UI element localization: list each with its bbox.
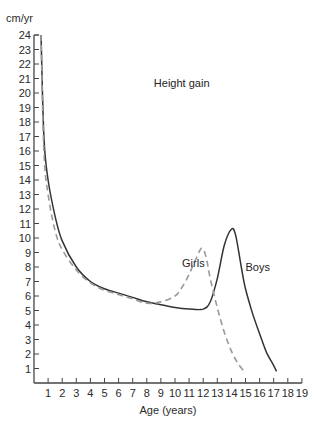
y-tick-label: 3 <box>25 334 31 346</box>
x-tick-label: 11 <box>183 387 194 399</box>
annotation-girls: Girls <box>182 257 205 269</box>
x-tick-label: 9 <box>158 387 164 399</box>
y-tick-label: 22 <box>19 58 31 70</box>
y-tick-label: 8 <box>25 261 31 273</box>
y-tick-label: 19 <box>19 102 31 114</box>
x-tick-label: 8 <box>144 387 150 399</box>
x-tick-label: 12 <box>197 387 209 399</box>
y-tick-label: 12 <box>19 203 31 215</box>
x-tick-label: 10 <box>169 387 181 399</box>
y-tick-label: 10 <box>19 232 31 244</box>
y-tick-label: 21 <box>19 73 31 85</box>
x-tick-label: 3 <box>73 387 79 399</box>
y-tick-label: 4 <box>25 319 31 331</box>
y-axis-title: cm/yr <box>6 12 33 24</box>
y-tick-label: 20 <box>19 87 31 99</box>
x-tick-label: 14 <box>225 387 237 399</box>
y-tick-label: 6 <box>25 290 31 302</box>
x-tick-label: 4 <box>87 387 93 399</box>
x-tick-label: 13 <box>211 387 223 399</box>
y-tick-label: 16 <box>19 145 31 157</box>
y-tick-label: 9 <box>25 247 31 259</box>
annotation-height-gain: Height gain <box>154 77 210 89</box>
y-tick-label: 11 <box>20 218 31 230</box>
y-tick-label: 5 <box>25 305 31 317</box>
y-tick-label: 2 <box>25 348 31 360</box>
x-tick-label: 16 <box>253 387 265 399</box>
x-axis-title: Age (years) <box>140 404 197 416</box>
x-tick-label: 2 <box>59 387 65 399</box>
height-velocity-chart: 1234567891011121314151617181920212223241… <box>0 0 325 425</box>
y-tick-label: 14 <box>19 174 31 186</box>
y-tick-label: 13 <box>19 189 31 201</box>
annotation-boys: Boys <box>246 261 271 273</box>
x-tick-label: 6 <box>116 387 122 399</box>
y-tick-label: 15 <box>19 160 31 172</box>
x-tick-label: 18 <box>282 387 294 399</box>
y-tick-label: 7 <box>25 276 31 288</box>
x-tick-label: 5 <box>101 387 107 399</box>
series-girls-line <box>41 35 245 373</box>
x-tick-label: 1 <box>45 387 51 399</box>
y-tick-label: 1 <box>25 363 31 375</box>
y-tick-label: 24 <box>19 29 31 41</box>
y-tick-label: 17 <box>19 131 31 143</box>
x-tick-label: 19 <box>296 387 308 399</box>
x-tick-label: 17 <box>268 387 280 399</box>
x-tick-label: 7 <box>130 387 136 399</box>
axes: 1234567891011121314151617181920212223241… <box>6 12 308 416</box>
x-tick-label: 15 <box>239 387 251 399</box>
y-tick-label: 18 <box>19 116 31 128</box>
y-tick-label: 23 <box>19 44 31 56</box>
labels-layer: Height gainGirlsBoys <box>154 77 271 273</box>
